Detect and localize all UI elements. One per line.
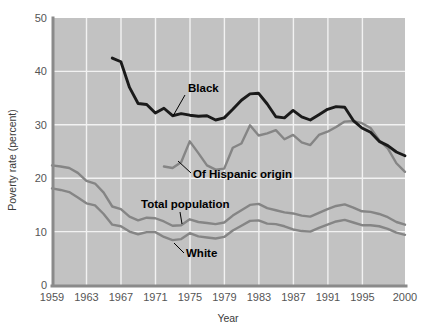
plot-area-background — [52, 18, 405, 285]
x-tick-1979: 1979 — [212, 291, 236, 303]
x-axis-title: Year — [217, 312, 239, 324]
x-tick-1975: 1975 — [178, 291, 202, 303]
chart-canvas: 0 10 20 30 40 50 1959 1963 1967 1971 197… — [0, 0, 444, 332]
y-tick-0: 0 — [41, 279, 47, 291]
y-tick-40: 40 — [35, 65, 47, 77]
x-tick-2000: 2000 — [393, 291, 417, 303]
y-tick-10: 10 — [35, 226, 47, 238]
series-label-hispanic: Of Hispanic origin — [193, 168, 292, 180]
x-tick-1987: 1987 — [281, 291, 305, 303]
x-tick-1963: 1963 — [74, 291, 98, 303]
x-tick-1983: 1983 — [247, 291, 271, 303]
y-axis-tick-labels: 0 10 20 30 40 50 — [35, 12, 47, 291]
poverty-rate-chart-figure: 0 10 20 30 40 50 1959 1963 1967 1971 197… — [0, 0, 444, 332]
x-tick-1995: 1995 — [350, 291, 374, 303]
x-tick-1971: 1971 — [143, 291, 167, 303]
series-label-white: White — [186, 247, 217, 259]
y-tick-30: 30 — [35, 119, 47, 131]
x-tick-1959: 1959 — [40, 291, 64, 303]
x-tick-1991: 1991 — [316, 291, 340, 303]
y-tick-20: 20 — [35, 172, 47, 184]
y-axis-title: Poverty rate (percent) — [6, 109, 18, 211]
y-tick-50: 50 — [35, 12, 47, 24]
series-label-black: Black — [188, 82, 219, 94]
x-tick-1967: 1967 — [109, 291, 133, 303]
x-axis-tick-labels: 1959 1963 1967 1971 1975 1979 1983 1987 … — [40, 291, 417, 303]
series-label-total-population: Total population — [141, 198, 230, 210]
